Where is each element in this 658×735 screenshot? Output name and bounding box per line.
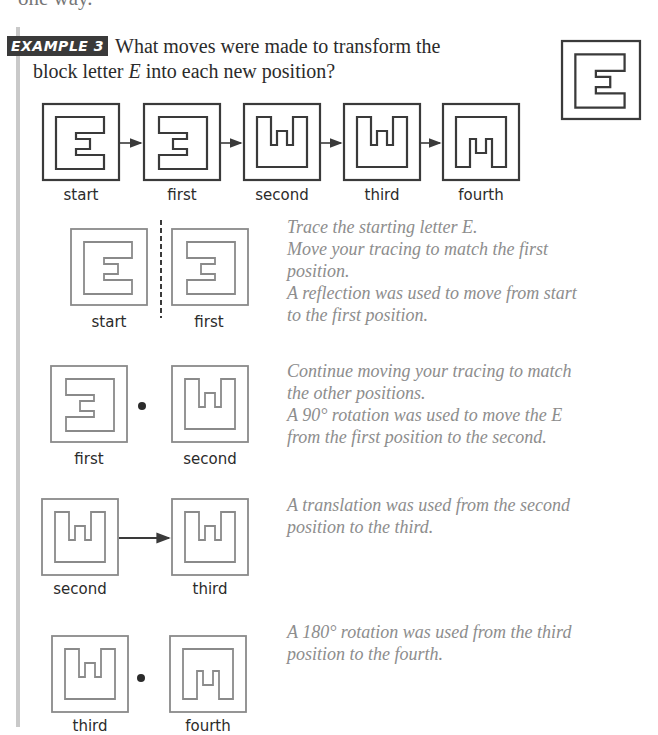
step1-note-line: position. [287, 260, 657, 282]
example-question-line2: block letter E into each new position? [33, 58, 335, 84]
step2-notes: Continue moving your tracing to match th… [287, 360, 657, 448]
transformation-sequence-figure [42, 103, 522, 183]
step4-label-third: third [40, 717, 140, 735]
rotation-center-dot [137, 674, 145, 682]
step1-label-first: first [159, 313, 259, 331]
step1-note-line: Trace the starting letter E. [287, 216, 657, 238]
sequence-label-start: start [31, 186, 131, 204]
step4-note-line: position to the fourth. [287, 643, 657, 665]
question-letter: E [129, 60, 141, 82]
step1-note-line: to the first position. [287, 304, 657, 326]
sequence-label-first: first [132, 186, 232, 204]
example-badge: EXAMPLE 3 [7, 36, 108, 56]
step3-notes: A translation was used from the second p… [287, 494, 657, 538]
step1-reflection-figure [70, 228, 255, 308]
step3-translation-figure [41, 498, 251, 578]
step1-note-line: Move your tracing to match the first [287, 238, 657, 260]
sequence-label-third: third [332, 186, 432, 204]
reference-letter-e-figure [561, 40, 641, 120]
example-question-line1: What moves were made to transform the [115, 33, 440, 59]
step1-note-line: A reflection was used to move from start [287, 282, 657, 304]
step2-note-line: Continue moving your tracing to match [287, 360, 657, 382]
step2-note-line: A 90° rotation was used to move the E [287, 404, 657, 426]
step2-label-first: first [39, 450, 139, 468]
rotation-center-dot [138, 402, 146, 410]
sequence-label-second: second [232, 186, 332, 204]
question-text-pre: block letter [33, 60, 129, 82]
question-text-post: into each new position? [141, 60, 335, 82]
previous-text-fragment: one way. [18, 0, 92, 11]
step1-notes: Trace the starting letter E. Move your t… [287, 216, 657, 326]
sequence-label-fourth: fourth [431, 186, 531, 204]
step2-note-line: the other positions. [287, 382, 657, 404]
step4-note-line: A 180° rotation was used from the third [287, 621, 657, 643]
example-side-bar [16, 27, 20, 727]
step3-label-second: second [30, 580, 130, 598]
step1-label-start: start [59, 313, 159, 331]
step4-label-fourth: fourth [158, 717, 258, 735]
step4-rotation-figure [51, 635, 251, 715]
step2-label-second: second [160, 450, 260, 468]
step4-notes: A 180° rotation was used from the third … [287, 621, 657, 665]
step3-note-line: A translation was used from the second [287, 494, 657, 516]
step3-note-line: position to the third. [287, 516, 657, 538]
step3-label-third: third [160, 580, 260, 598]
step2-note-line: from the first position to the second. [287, 426, 657, 448]
step2-rotation-figure [50, 365, 250, 445]
